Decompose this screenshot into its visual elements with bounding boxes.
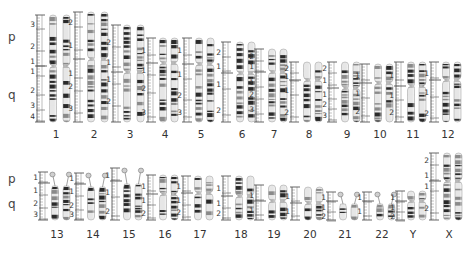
chromosome-label-3: 3 <box>127 128 134 140</box>
chromosome-label-15: 15 <box>122 228 135 240</box>
svg-text:1: 1 <box>424 171 429 180</box>
chromosome-label-18: 18 <box>234 228 247 240</box>
chromatid-left <box>443 152 452 221</box>
chromosome-label-6: 6 <box>239 128 246 140</box>
svg-text:1: 1 <box>424 182 429 191</box>
chromosome-label-12: 12 <box>441 128 454 140</box>
chromosome-label-2: 2 <box>91 128 98 140</box>
chromatid-right <box>454 152 463 221</box>
band-ruler: 2112 <box>424 153 441 220</box>
chromosome-label-22: 22 <box>375 228 388 240</box>
chromosome-label-16: 16 <box>158 228 171 240</box>
chromosome-label-17: 17 <box>193 228 206 240</box>
chromosome-label-14: 14 <box>86 228 99 240</box>
svg-text:2: 2 <box>424 204 429 213</box>
chromosome-label-8: 8 <box>306 128 313 140</box>
chromosome-label-5: 5 <box>198 128 205 140</box>
chromosome-label-10: 10 <box>373 128 386 140</box>
chromosome-label-4: 4 <box>162 128 169 140</box>
chromosome-label-21: 21 <box>338 228 351 240</box>
chromosome-label-y: Y <box>410 228 416 240</box>
chromosome-label-13: 13 <box>50 228 63 240</box>
chromosome-label-7: 7 <box>271 128 278 140</box>
karyotype-diagram: p q p q 32112342112321121123112321122112… <box>0 0 475 255</box>
chromosome-label-9: 9 <box>344 128 351 140</box>
chromosome-label-x: X <box>445 228 452 240</box>
chromosome-label-19: 19 <box>267 228 280 240</box>
chromosome-label-20: 20 <box>303 228 316 240</box>
chromosome-label-11: 11 <box>406 128 419 140</box>
chromosome-label-1: 1 <box>53 128 60 140</box>
svg-text:2: 2 <box>424 156 429 165</box>
